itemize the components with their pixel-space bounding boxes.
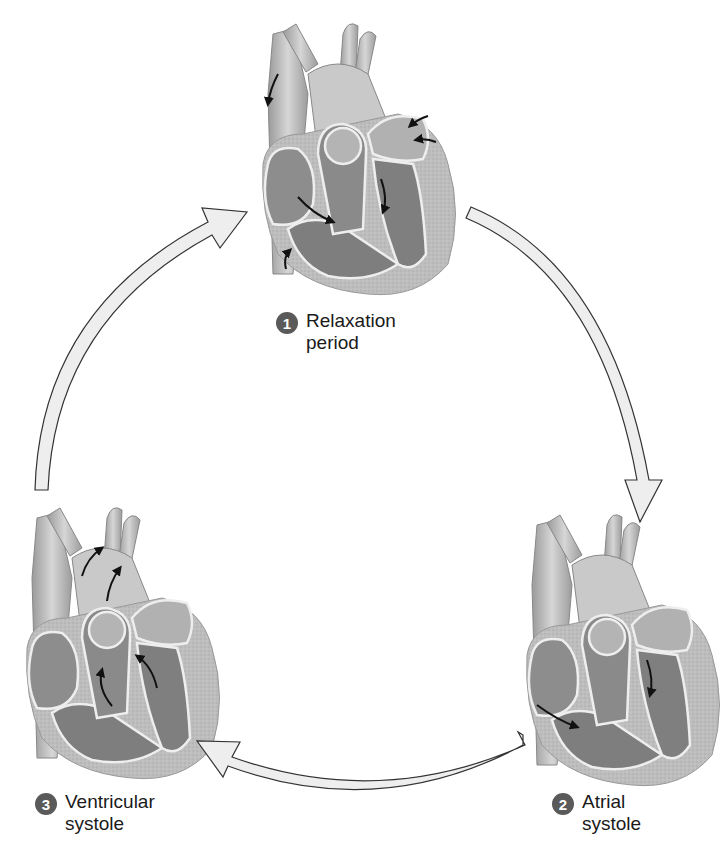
stage-number-badge: 2 — [552, 793, 574, 815]
cycle-arrow-2-to-3 — [197, 732, 525, 790]
stage-number-badge: 1 — [276, 312, 298, 334]
heart-relaxation-period — [263, 24, 456, 295]
stage-name: Atrial systole — [582, 791, 641, 835]
cycle-arrow-1-to-2 — [466, 207, 662, 522]
cycle-arrow-3-to-1 — [35, 208, 247, 490]
cardiac-cycle-diagram — [0, 0, 721, 861]
stage-label-atrial-systole: 2 Atrial systole — [552, 791, 641, 835]
stage-label-relaxation-period: 1 Relaxation period — [276, 310, 396, 354]
stage-number-badge: 3 — [35, 793, 57, 815]
stage-name-line2: systole — [65, 813, 155, 835]
heart-atrial-systole — [527, 515, 720, 786]
stage-name-line1: Ventricular — [65, 791, 155, 813]
stage-name-line2: systole — [582, 813, 641, 835]
heart-ventricular-systole — [27, 508, 220, 779]
stage-name-line2: period — [306, 332, 396, 354]
stage-name-line1: Atrial — [582, 791, 641, 813]
stage-label-ventricular-systole: 3 Ventricular systole — [35, 791, 155, 835]
stage-name: Relaxation period — [306, 310, 396, 354]
stage-name-line1: Relaxation — [306, 310, 396, 332]
stage-name: Ventricular systole — [65, 791, 155, 835]
